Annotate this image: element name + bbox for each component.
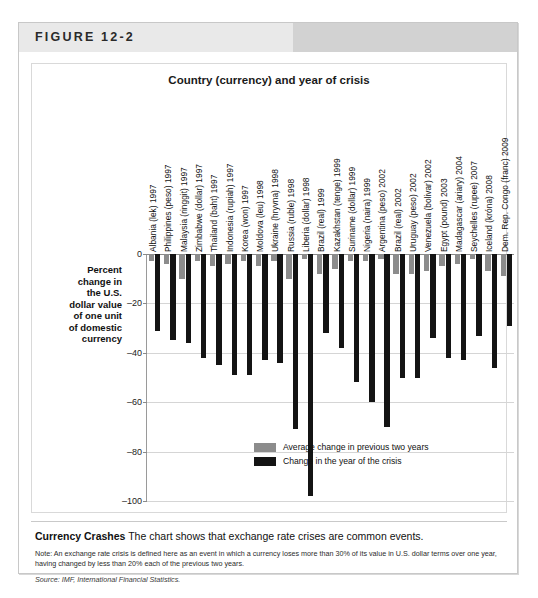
bar-crisis-year [232, 254, 237, 375]
bar-previous-two-years [485, 254, 490, 271]
bar-group [470, 254, 482, 501]
bar-crisis-year [461, 254, 466, 360]
bar-group [501, 254, 513, 501]
bar-previous-two-years [332, 254, 337, 269]
x-axis-label: Russia (ruble) 1998 [286, 179, 296, 252]
bar-crisis-year [384, 254, 389, 427]
x-axis-label: Malaysia (ringgit) 1997 [179, 167, 189, 252]
bar-crisis-year [155, 254, 160, 331]
bar-crisis-year [247, 254, 252, 375]
bar-previous-two-years [409, 254, 414, 274]
x-axis-label: Thailand (baht) 1997 [209, 175, 219, 252]
bar-previous-two-years [164, 254, 169, 264]
figure-number-label: FIGURE 12-2 [35, 30, 135, 44]
x-axis-label: Indonesia (rupiah) 1997 [225, 164, 235, 252]
bar-previous-two-years [439, 254, 444, 266]
x-axis-label: Korea (won) 1997 [240, 185, 250, 252]
x-axis-label: Argentina (peso) 2002 [377, 169, 387, 252]
x-axis-label: Dem. Rep. Congo (franc) 2009 [500, 137, 510, 252]
bar-previous-two-years [286, 254, 291, 279]
bar-previous-two-years [256, 254, 261, 266]
legend-item: Average change in previous two years [254, 442, 429, 452]
bar-crisis-year [201, 254, 206, 358]
bar-previous-two-years [424, 254, 429, 271]
x-axis-label: Nigeria (naira) 1999 [362, 178, 372, 252]
x-axis-label: Philippines (peso) 1997 [163, 164, 173, 252]
gridline--100 [147, 501, 514, 502]
bar-crisis-year [476, 254, 481, 336]
x-axis-label: Seychelles (rupee) 2007 [469, 161, 479, 252]
chart-panel: Country (currency) and year of crisis Pe… [31, 63, 507, 513]
bar-group [179, 254, 191, 501]
caption-headline: Currency Crashes The chart shows that ex… [35, 529, 499, 543]
y-tick-label--40: –40 [127, 348, 142, 358]
x-axis-label: Zimbabwe (dollar) 1997 [194, 164, 204, 252]
x-axis-label: Moldova (leu) 1998 [255, 180, 265, 252]
x-axis-label: Iceland (króna) 2008 [484, 175, 494, 252]
bar-group [241, 254, 253, 501]
bar-group [225, 254, 237, 501]
bar-crisis-year [446, 254, 451, 358]
bar-group [164, 254, 176, 501]
bar-previous-two-years [302, 254, 307, 259]
x-axis-label: Ukraine (hryvna) 1998 [270, 169, 280, 252]
bar-previous-two-years [501, 254, 506, 276]
bar-previous-two-years [149, 254, 154, 261]
bar-crisis-year [170, 254, 175, 340]
y-tick-mark--100 [143, 501, 147, 502]
bar-crisis-year [186, 254, 191, 343]
bar-crisis-year [400, 254, 405, 378]
bar-group [195, 254, 207, 501]
caption-note: Note: An exchange rate crisis is defined… [35, 549, 499, 568]
legend-label: Change in the year of the crisis [283, 456, 401, 466]
bar-crisis-year [492, 254, 497, 368]
bar-crisis-year [216, 254, 221, 365]
x-axis-label: Madagascar (ariary) 2004 [454, 156, 464, 252]
x-axis-label: Albania (lek) 1997 [148, 184, 158, 252]
bar-crisis-year [339, 254, 344, 348]
x-axis-label: Brazil (real) 2002 [393, 188, 403, 252]
y-axis-title: Percentchange inthe U.S.dollar valueof o… [50, 264, 122, 345]
legend-swatch-prev [254, 443, 276, 452]
y-tick-label--100: –100 [122, 496, 142, 506]
x-axis-label: Brazil (real) 1999 [316, 188, 326, 252]
y-tick-label-0: 0 [137, 249, 142, 259]
bar-previous-two-years [179, 254, 184, 279]
figure-card: FIGURE 12-2 Country (currency) and year … [18, 22, 518, 574]
bar-group [149, 254, 161, 501]
bar-previous-two-years [348, 254, 353, 261]
x-axis-label: Uruguay (peso) 2002 [408, 173, 418, 252]
bar-crisis-year [369, 254, 374, 402]
bar-previous-two-years [225, 254, 230, 264]
bar-crisis-year [354, 254, 359, 382]
x-axis-label: Liberia (dollar) 1998 [301, 178, 311, 253]
bar-previous-two-years [455, 254, 460, 264]
legend-label: Average change in previous two years [283, 442, 429, 452]
bar-crisis-year [262, 254, 267, 360]
bar-crisis-year [415, 254, 420, 378]
y-tick-label--60: –60 [127, 397, 142, 407]
chart-title: Country (currency) and year of crisis [32, 74, 506, 86]
x-axis-label: Kazakhstan (tenge) 1999 [332, 158, 342, 252]
caption-source: Source: IMF, International Financial Sta… [35, 575, 499, 584]
bar-crisis-year [293, 254, 298, 429]
bar-group [455, 254, 467, 501]
x-axis-label: Egypt (pound) 2003 [439, 178, 449, 252]
x-axis-label: Venezuela (bolivar) 2002 [423, 159, 433, 252]
x-axis-label: Suriname (dollar) 1999 [347, 167, 357, 252]
bar-previous-two-years [271, 254, 276, 261]
caption-headline-text: The chart shows that exchange rate crise… [128, 530, 423, 542]
bar-crisis-year [323, 254, 328, 333]
caption-lead: Currency Crashes [35, 530, 125, 542]
bar-previous-two-years [363, 254, 368, 261]
bar-crisis-year [277, 254, 282, 363]
bar-group [439, 254, 451, 501]
bar-previous-two-years [393, 254, 398, 274]
bar-previous-two-years [195, 254, 200, 261]
y-tick-label--80: –80 [127, 447, 142, 457]
bar-previous-two-years [241, 254, 246, 261]
figure-header-band: FIGURE 12-2 [19, 23, 517, 53]
bar-previous-two-years [210, 254, 215, 266]
bar-previous-two-years [317, 254, 322, 274]
bar-previous-two-years [470, 254, 475, 259]
